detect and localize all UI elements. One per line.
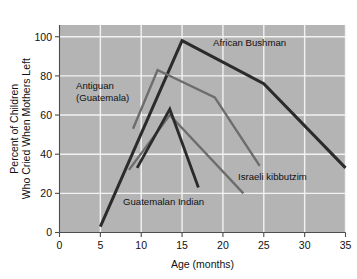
y-tick-label: 0 bbox=[46, 226, 52, 238]
y-tick-label: 40 bbox=[40, 148, 52, 160]
annotation-israeli-kibbutzim: Israeli kibbutzim bbox=[238, 171, 307, 182]
y-axis-title-line: Who Cried When Mothers Left bbox=[20, 58, 32, 199]
chart-figure: 05101520253035 020406080100 African Bush… bbox=[0, 0, 357, 279]
y-tick-label: 100 bbox=[34, 31, 52, 43]
annotation-guatemalan-indian: Guatemalan Indian bbox=[123, 196, 204, 207]
x-tick-label: 5 bbox=[97, 239, 103, 251]
x-tick-label: 0 bbox=[57, 239, 63, 251]
x-tick-label: 25 bbox=[258, 239, 270, 251]
y-tick-label: 60 bbox=[40, 109, 52, 121]
y-axis-title-line: Percent of Children bbox=[8, 84, 20, 174]
x-axis-title-text: Age (months) bbox=[171, 258, 234, 270]
x-tick-label: 15 bbox=[176, 239, 188, 251]
x-tick-label: 30 bbox=[299, 239, 311, 251]
x-tick-label: 10 bbox=[135, 239, 147, 251]
crying-percent-line-chart: 05101520253035 020406080100 African Bush… bbox=[0, 0, 357, 279]
y-tick-label: 20 bbox=[40, 187, 52, 199]
x-axis-title: Age (months) bbox=[171, 258, 234, 270]
x-tick-label: 20 bbox=[217, 239, 229, 251]
y-tick-label: 80 bbox=[40, 70, 52, 82]
x-tick-label: 35 bbox=[340, 239, 352, 251]
annotation-african-bushman: African Bushman bbox=[213, 37, 286, 48]
